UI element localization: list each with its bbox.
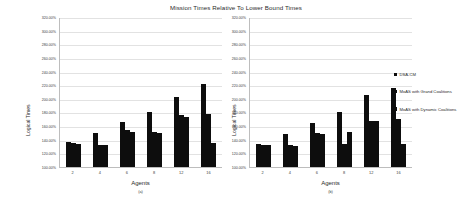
y-tick-label: 260.00%: [232, 57, 246, 61]
x-axis-label-a: Agents: [59, 180, 222, 186]
legend-swatch-icon: [394, 73, 397, 76]
y-tick-label: 100.00%: [232, 166, 246, 170]
bar: [347, 132, 352, 167]
x-axis-label-b: Agents: [249, 180, 412, 186]
x-tick-label: 4: [276, 170, 303, 180]
legend-swatch-icon: [394, 107, 397, 110]
x-tick-label: 2: [59, 170, 86, 180]
x-tick-label: 6: [113, 170, 140, 180]
x-tick-label: 16: [385, 170, 412, 180]
bar: [266, 145, 271, 167]
y-tick-label: 280.00%: [232, 43, 246, 47]
panel-sublabel-b: (b): [249, 190, 412, 194]
bar-groups-b: [250, 18, 412, 167]
y-tick-label: 260.00%: [42, 57, 56, 61]
y-tick-label: 280.00%: [42, 43, 56, 47]
y-tick-label: 220.00%: [232, 84, 246, 88]
bar-group: [358, 18, 385, 167]
legend-label: MoAS with Grand Coalitions: [399, 89, 451, 95]
y-tick-label: 240.00%: [232, 71, 246, 75]
x-tick-label: 12: [358, 170, 385, 180]
bar: [401, 144, 406, 167]
bar: [103, 145, 108, 167]
bar-group: [277, 18, 304, 167]
plot-area-b: [249, 18, 412, 168]
y-tick-label: 140.00%: [232, 139, 246, 143]
bar: [130, 132, 135, 167]
bar-group: [304, 18, 331, 167]
y-tick-label: 300.00%: [232, 30, 246, 34]
y-tick-label: 100.00%: [42, 166, 56, 170]
x-tick-label: 8: [141, 170, 168, 180]
bar: [157, 133, 162, 167]
chart-title: Mission Times Relative To Lower Bound Ti…: [0, 4, 472, 11]
bar: [293, 146, 298, 167]
y-tick-label: 220.00%: [42, 84, 56, 88]
bar-group: [331, 18, 358, 167]
bar: [76, 144, 81, 167]
y-tick-label: 320.00%: [232, 16, 246, 20]
panel-sublabel-a: (a): [59, 190, 222, 194]
y-tick-label: 180.00%: [42, 111, 56, 115]
y-tick-label: 200.00%: [42, 98, 56, 102]
bar-group: [114, 18, 141, 167]
chart-figure: Mission Times Relative To Lower Bound Ti…: [0, 0, 472, 204]
y-tick-label: 160.00%: [42, 125, 56, 129]
chart-legend: DSA-CMMoAS with Grand CoalitionsMoAS wit…: [394, 72, 472, 124]
y-tick-label: 300.00%: [42, 30, 56, 34]
bar: [184, 117, 189, 167]
y-tick-label: 140.00%: [42, 139, 56, 143]
legend-item[interactable]: MoAS with Grand Coalitions: [394, 89, 472, 95]
bar-group: [141, 18, 168, 167]
bar: [211, 143, 216, 167]
y-axis-ticks-a: 320.00%300.00%280.00%260.00%240.00%220.0…: [28, 18, 58, 168]
x-tick-label: 16: [195, 170, 222, 180]
bar: [374, 121, 379, 167]
legend-label: DSA-CM: [399, 72, 416, 78]
y-tick-label: 240.00%: [42, 71, 56, 75]
y-tick-label: 320.00%: [42, 16, 56, 20]
y-tick-label: 120.00%: [42, 152, 56, 156]
x-axis-ticks-b: 24681216: [249, 170, 412, 180]
x-tick-label: 4: [86, 170, 113, 180]
plot-area-a: [59, 18, 222, 168]
x-axis-ticks-a: 24681216: [59, 170, 222, 180]
bar-group: [168, 18, 195, 167]
bar-group: [250, 18, 277, 167]
y-axis-ticks-b: 320.00%300.00%280.00%260.00%240.00%220.0…: [218, 18, 248, 168]
y-tick-label: 180.00%: [232, 111, 246, 115]
x-tick-label: 12: [168, 170, 195, 180]
legend-item[interactable]: MoAS with Dynamic Coalitions: [394, 107, 472, 113]
y-tick-label: 160.00%: [232, 125, 246, 129]
y-tick-label: 200.00%: [232, 98, 246, 102]
bar: [320, 134, 325, 167]
bar-group: [60, 18, 87, 167]
legend-swatch-icon: [394, 90, 397, 93]
chart-panel-a: Logical Times 320.00%300.00%280.00%260.0…: [0, 18, 236, 204]
bar-groups-a: [60, 18, 222, 167]
x-tick-label: 8: [331, 170, 358, 180]
legend-item[interactable]: DSA-CM: [394, 72, 472, 78]
bar-group: [87, 18, 114, 167]
legend-label: MoAS with Dynamic Coalitions: [399, 107, 456, 113]
x-tick-label: 2: [249, 170, 276, 180]
y-tick-label: 120.00%: [232, 152, 246, 156]
x-tick-label: 6: [303, 170, 330, 180]
